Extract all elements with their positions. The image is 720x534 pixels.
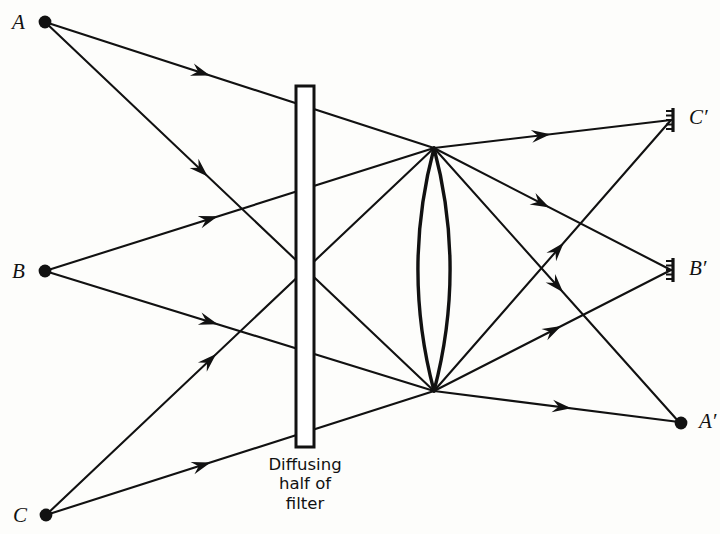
ray-B-to-lens_top bbox=[45, 148, 434, 271]
lens-right-surface bbox=[434, 148, 450, 391]
image-screen-marker-bp bbox=[666, 258, 673, 282]
arrowhead-lens_bottom-to-Bp bbox=[541, 326, 561, 340]
filter-caption-line-1: Diffusing bbox=[215, 455, 395, 474]
image-point-marker-ap bbox=[675, 417, 688, 430]
lens-left-surface bbox=[418, 148, 434, 391]
arrowhead-lens_top-to-Bp bbox=[530, 193, 550, 207]
filter-outline bbox=[296, 86, 314, 447]
ray-A-to-lens_bottom bbox=[45, 22, 434, 391]
point-markers-group bbox=[39, 16, 688, 522]
object-point-marker-c bbox=[40, 509, 53, 522]
object-point-marker-b bbox=[39, 265, 52, 278]
ray-A-to-lens_top bbox=[45, 22, 434, 148]
filter-plate-group bbox=[294, 86, 316, 476]
ray-arrowheads-group bbox=[190, 64, 572, 475]
object-point-marker-a bbox=[39, 16, 52, 29]
ray-lens_bottom-to-Ap bbox=[434, 391, 679, 422]
biconvex-lens bbox=[418, 148, 450, 391]
image-point-label-c-prime: C′ bbox=[689, 107, 708, 128]
diagram-canvas bbox=[0, 0, 720, 534]
image-point-label-b-prime: B′ bbox=[689, 258, 706, 279]
ray-lens_bottom-to-Cp bbox=[434, 120, 671, 391]
filter-caption-line-2: half of bbox=[215, 474, 395, 493]
object-point-label-c: C bbox=[13, 505, 27, 526]
filter-caption-line-3: filter bbox=[215, 494, 395, 513]
object-point-label-a: A bbox=[12, 12, 25, 33]
filter-caption: Diffusing half of filter bbox=[215, 455, 395, 513]
ray-lines-group bbox=[45, 22, 679, 515]
image-screen-marker-cp bbox=[666, 108, 673, 132]
optics-ray-diagram: A B C C′ B′ A′ Diffusing half of filter bbox=[0, 0, 720, 534]
image-point-label-a-prime: A′ bbox=[699, 411, 716, 432]
ray-lens_top-to-Cp bbox=[434, 120, 671, 148]
object-point-label-b: B bbox=[12, 261, 25, 282]
